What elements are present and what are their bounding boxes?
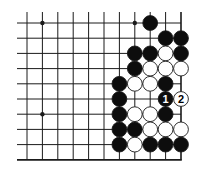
move-number-label: 1 <box>163 93 169 105</box>
black-stone <box>174 31 189 46</box>
black-stone <box>112 92 127 107</box>
move-number-label: 2 <box>178 93 184 105</box>
black-stone <box>112 122 127 137</box>
white-stone <box>158 122 173 137</box>
white-stone <box>127 107 142 122</box>
black-stone <box>112 76 127 91</box>
white-stone <box>174 61 189 76</box>
black-stone <box>158 76 173 91</box>
white-stone <box>158 46 173 61</box>
white-stone <box>143 61 158 76</box>
white-stone: 2 <box>174 92 189 107</box>
black-stone <box>143 16 158 31</box>
black-stone <box>158 137 173 152</box>
black-stone <box>143 137 158 152</box>
black-stone <box>174 137 189 152</box>
black-stone <box>112 107 127 122</box>
white-stone <box>174 122 189 137</box>
black-stone <box>112 137 127 152</box>
white-stone <box>158 61 173 76</box>
white-stone <box>143 76 158 91</box>
black-stone <box>174 46 189 61</box>
star-point <box>40 112 44 116</box>
black-stone <box>158 31 173 46</box>
go-board: 12 <box>0 0 205 173</box>
white-stone <box>143 122 158 137</box>
black-stone <box>127 46 142 61</box>
black-stone <box>158 107 173 122</box>
white-stone <box>127 137 142 152</box>
star-point <box>133 21 137 25</box>
black-stone <box>127 61 142 76</box>
black-stone <box>143 46 158 61</box>
white-stone <box>143 107 158 122</box>
black-stone <box>127 122 142 137</box>
star-point <box>40 21 44 25</box>
black-stone: 1 <box>158 92 173 107</box>
white-stone <box>127 76 142 91</box>
